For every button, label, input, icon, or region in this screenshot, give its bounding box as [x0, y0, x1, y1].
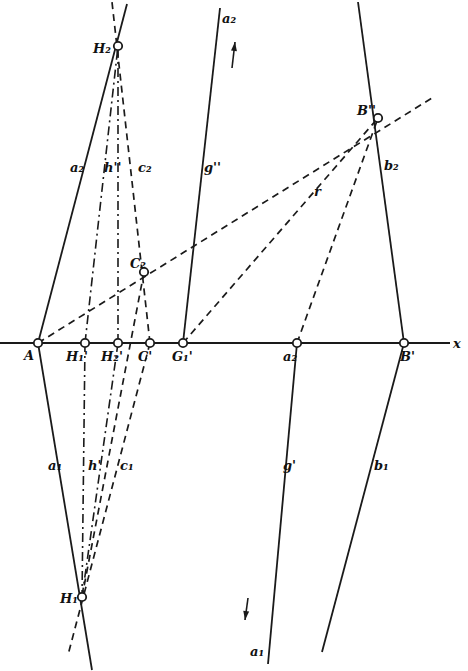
- construction-points: [34, 42, 408, 601]
- line-label-x-axis: x: [452, 336, 461, 351]
- line-c1: [68, 343, 150, 655]
- line-g2: [183, 8, 220, 343]
- arrow-down-head-icon: [243, 611, 249, 620]
- line-h2: [85, 46, 118, 343]
- dashed-lines: [38, 2, 432, 655]
- line-c2-h1: [82, 272, 144, 597]
- line-label-a2-line: a₂: [70, 160, 84, 175]
- line-label-b2: b₂: [384, 158, 399, 173]
- point-label-A: A: [22, 348, 34, 363]
- point-label-Bp: B': [399, 349, 415, 364]
- point-A: [34, 339, 42, 347]
- line-a1: [38, 343, 92, 670]
- point-label-H2: H₂: [92, 41, 111, 56]
- point-label-H1p: H₁': [65, 349, 88, 364]
- line-label-h1: h': [88, 458, 101, 473]
- point-H1: [78, 593, 86, 601]
- line-g1p-b2: [183, 118, 378, 343]
- point-H2: [114, 42, 122, 50]
- point-a2p: [293, 339, 301, 347]
- point-label-C2: C₂: [130, 256, 146, 271]
- construction-canvas: AH₁'H₂'C'G₁'a₂B'H₂C₂B''H₁a₂a₂h''c₂g''rb₂…: [0, 0, 468, 671]
- point-Cp: [146, 339, 154, 347]
- line-label-a1: a₁: [48, 458, 62, 473]
- line-a2p-b2: [297, 118, 378, 343]
- line-g1: [268, 343, 297, 664]
- line-b1: [322, 343, 404, 652]
- geometry-figure: AH₁'H₂'C'G₁'a₂B'H₂C₂B''H₁a₂a₂h''c₂g''rb₂…: [0, 0, 468, 671]
- line-label-b1: b₁: [374, 458, 389, 473]
- point-H2p: [114, 339, 122, 347]
- point-Bp: [400, 339, 408, 347]
- point-label-a2p: a₂: [283, 349, 297, 364]
- point-label-B2: B'': [356, 103, 376, 118]
- line-label-g2: g'': [204, 160, 221, 175]
- point-label-H1: H₁: [59, 591, 78, 606]
- point-label-H2p: H₂': [100, 349, 123, 364]
- line-label-a1-bottom: a₁: [250, 644, 264, 659]
- point-label-G1p: G₁': [172, 349, 193, 364]
- line-label-c2: c₂: [138, 160, 152, 175]
- arrow-up-head-icon: [231, 42, 237, 51]
- line-label-c1: c₁: [120, 458, 134, 473]
- point-label-Cp: C': [138, 349, 152, 364]
- dashdot-lines: [82, 46, 118, 597]
- line-h1: [82, 343, 85, 597]
- line-label-g1: g': [283, 458, 296, 473]
- line-label-a2-top: a₂: [222, 11, 236, 26]
- line-label-r: r: [314, 184, 322, 199]
- labels: AH₁'H₂'C'G₁'a₂B'H₂C₂B''H₁a₂a₂h''c₂g''rb₂…: [22, 11, 461, 659]
- point-H1p: [81, 339, 89, 347]
- line-label-h2: h'': [104, 160, 121, 175]
- point-G1p: [179, 339, 187, 347]
- line-r: [38, 98, 432, 343]
- solid-lines: [38, 2, 404, 670]
- direction-arrows: [231, 42, 249, 620]
